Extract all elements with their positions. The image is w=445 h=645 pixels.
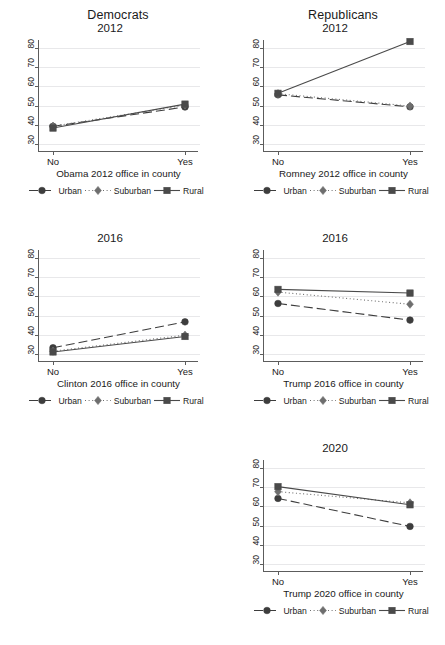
x-axis-title: Obama 2012 office in county <box>39 168 198 179</box>
legend: Urban Suburban Rural <box>30 185 206 196</box>
y-axis-tick-label: 50 <box>27 307 36 316</box>
legend-label: Rural <box>180 186 207 196</box>
y-axis-tick-label: 50 <box>27 97 36 106</box>
y-axis-tick-label: 60 <box>252 77 261 86</box>
panel-title: 2012 <box>8 22 212 34</box>
y-axis-tick-label: 80 <box>27 39 36 48</box>
y-axis-tick-label: 60 <box>27 287 36 296</box>
legend-marker-square-icon <box>154 395 180 406</box>
y-axis-tick-label: 80 <box>252 39 261 48</box>
x-axis-tick-label: No <box>272 366 284 377</box>
legend: Urban Suburban Rural <box>255 185 431 196</box>
y-axis-tick-label: 70 <box>252 58 261 67</box>
plot-area: 304050607080NoYesTrump 2016 office in co… <box>263 250 423 362</box>
y-axis-tick-label: 60 <box>27 77 36 86</box>
series-layer <box>264 460 424 572</box>
legend-item-urban[interactable]: Urban <box>254 395 309 406</box>
legend-label: Suburban <box>336 186 379 196</box>
legend-marker-square-icon <box>154 185 180 196</box>
column-title-republicans: Republicans <box>243 8 443 22</box>
axes-frame: 304050607080NoYesObama 2012 office in co… <box>38 40 198 152</box>
x-axis-title: Trump 2020 office in county <box>264 588 423 599</box>
legend-marker-diamond-icon <box>310 605 336 616</box>
panel-rep-2016: 2016304050607080NoYesTrump 2016 office i… <box>233 232 437 420</box>
y-axis-tick-label: 40 <box>27 326 36 335</box>
legend-item-rural[interactable]: Rural <box>379 185 432 196</box>
plot-area: 304050607080NoYesTrump 2020 office in co… <box>263 460 423 572</box>
legend-item-suburban[interactable]: Suburban <box>85 395 154 406</box>
legend-item-suburban[interactable]: Suburban <box>310 605 379 616</box>
panel-title: 2016 <box>233 232 437 244</box>
panel-dem-2016: 2016304050607080NoYesClinton 2016 office… <box>8 232 212 420</box>
legend-marker-square-icon <box>379 185 405 196</box>
legend: Urban Suburban Rural <box>255 605 431 616</box>
legend-item-suburban[interactable]: Suburban <box>310 395 379 406</box>
y-axis-tick-label: 60 <box>252 497 261 506</box>
x-axis-tick-label: Yes <box>402 156 418 167</box>
series-layer <box>39 40 199 152</box>
axes-frame: 304050607080NoYesTrump 2016 office in co… <box>263 250 423 362</box>
axes-frame: 304050607080NoYesTrump 2020 office in co… <box>263 460 423 572</box>
legend-label: Suburban <box>111 396 154 406</box>
panel-title: 2012 <box>233 22 437 34</box>
legend-item-urban[interactable]: Urban <box>254 185 309 196</box>
y-axis-tick-label: 40 <box>252 326 261 335</box>
x-axis-tick-label: No <box>272 576 284 587</box>
legend-label: Urban <box>280 396 309 406</box>
y-axis-tick-label: 40 <box>27 116 36 125</box>
legend-label: Urban <box>280 186 309 196</box>
legend-marker-diamond-icon <box>85 395 111 406</box>
legend: Urban Suburban Rural <box>30 395 206 406</box>
legend-item-rural[interactable]: Rural <box>379 395 432 406</box>
y-axis-tick-label: 60 <box>252 287 261 296</box>
legend-item-suburban[interactable]: Suburban <box>85 185 154 196</box>
legend-item-urban[interactable]: Urban <box>29 395 84 406</box>
legend-label: Suburban <box>336 396 379 406</box>
y-axis-tick-label: 80 <box>252 249 261 258</box>
y-axis-tick-label: 50 <box>252 97 261 106</box>
plot-area: 304050607080NoYesRomney 2012 office in c… <box>263 40 423 152</box>
legend-label: Urban <box>280 606 309 616</box>
legend-marker-circle-icon <box>254 185 280 196</box>
legend-marker-diamond-icon <box>310 185 336 196</box>
panel-dem-2012: 2012304050607080NoYesObama 2012 office i… <box>8 22 212 210</box>
axes-frame: 304050607080NoYesClinton 2016 office in … <box>38 250 198 362</box>
legend-label: Rural <box>405 606 432 616</box>
series-layer <box>264 250 424 362</box>
x-axis-tick-label: Yes <box>177 366 193 377</box>
legend-item-suburban[interactable]: Suburban <box>310 185 379 196</box>
legend-label: Suburban <box>336 606 379 616</box>
series-layer <box>39 250 199 362</box>
legend-item-rural[interactable]: Rural <box>379 605 432 616</box>
legend: Urban Suburban Rural <box>255 395 431 406</box>
figure-root: Democrats Republicans 2012304050607080No… <box>0 0 445 645</box>
series-layer <box>264 40 424 152</box>
legend-marker-diamond-icon <box>310 395 336 406</box>
legend-label: Rural <box>405 396 432 406</box>
legend-marker-circle-icon <box>29 185 55 196</box>
legend-item-urban[interactable]: Urban <box>29 185 84 196</box>
y-axis-tick-label: 30 <box>27 135 36 144</box>
legend-item-rural[interactable]: Rural <box>154 395 207 406</box>
x-axis-tick-label: Yes <box>402 576 418 587</box>
panel-rep-2020: 2020304050607080NoYesTrump 2020 office i… <box>233 442 437 630</box>
legend-marker-circle-icon <box>254 395 280 406</box>
legend-label: Rural <box>405 186 432 196</box>
x-axis-tick-label: Yes <box>177 156 193 167</box>
x-axis-tick-label: No <box>47 156 59 167</box>
panel-title: 2016 <box>8 232 212 244</box>
legend-item-urban[interactable]: Urban <box>254 605 309 616</box>
y-axis-tick-label: 70 <box>27 268 36 277</box>
panel-rep-2012: 2012304050607080NoYesRomney 2012 office … <box>233 22 437 210</box>
y-axis-tick-label: 40 <box>252 536 261 545</box>
legend-label: Urban <box>55 186 84 196</box>
y-axis-tick-label: 40 <box>252 116 261 125</box>
panel-title: 2020 <box>233 442 437 454</box>
x-axis-tick-label: No <box>47 366 59 377</box>
x-axis-title: Romney 2012 office in county <box>264 168 423 179</box>
plot-area: 304050607080NoYesClinton 2016 office in … <box>38 250 198 362</box>
y-axis-tick-label: 70 <box>252 478 261 487</box>
legend-item-rural[interactable]: Rural <box>154 185 207 196</box>
legend-label: Rural <box>180 396 207 406</box>
column-title-democrats: Democrats <box>18 8 218 22</box>
